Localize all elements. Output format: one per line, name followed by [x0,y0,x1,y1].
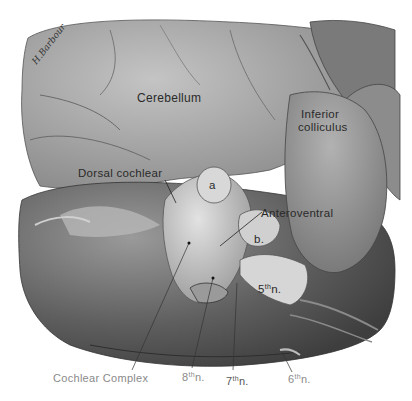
label-cochlear-complex: Cochlear Complex [53,373,148,384]
label-inferior-colliculus-line2: colliculus [298,122,348,134]
brain-drawing [0,0,412,401]
label-5th-nerve: 5thn. [258,283,281,296]
label-8th-nerve: 8thn. [182,371,205,383]
label-anteroventral: Anteroventral [261,208,333,220]
label-b: b. [254,234,264,246]
label-inferior-colliculus-line1: Inferior [301,109,339,121]
label-dorsal-cochlear: Dorsal cochlear [78,168,162,180]
label-6th-nerve: 6thn. [288,373,311,385]
label-cerebellum: Cerebellum [137,92,201,104]
label-a: a [209,180,216,192]
label-7th-nerve: 7thn. [226,375,249,387]
anatomical-illustration: H.Barbour Cerebellum Inferior colliculus… [0,0,412,401]
